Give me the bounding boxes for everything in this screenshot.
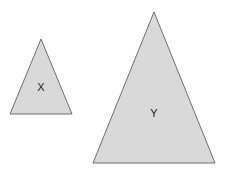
triangle-x-label: X — [37, 81, 45, 93]
triangle-x-shape — [10, 39, 72, 114]
triangle-y-shape — [93, 12, 215, 163]
diagram-canvas: X Y — [0, 0, 226, 172]
triangle-x: X — [10, 39, 72, 114]
triangle-y-label: Y — [150, 107, 158, 119]
triangle-y: Y — [93, 12, 215, 163]
